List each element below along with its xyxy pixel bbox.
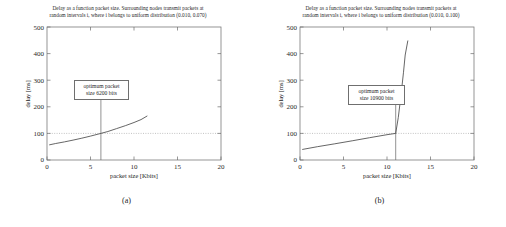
annotation-a-line2: size 6200 bits [86, 90, 117, 97]
x-axis-label-b: packet size [Kbits] [363, 172, 411, 179]
svg-text:400: 400 [287, 50, 298, 58]
svg-text:20: 20 [218, 163, 226, 171]
svg-text:100: 100 [34, 130, 45, 138]
svg-text:500: 500 [34, 24, 45, 32]
svg-text:15: 15 [174, 163, 182, 171]
figure-container: Delay as a function packet size. Surroun… [0, 0, 506, 227]
svg-text:15: 15 [427, 163, 435, 171]
subfigure-caption-a: (a) [0, 196, 253, 205]
svg-text:10: 10 [131, 163, 139, 171]
svg-text:20: 20 [471, 163, 479, 171]
svg-text:100: 100 [287, 130, 298, 138]
y-axis-label-a: delay [ms] [24, 80, 31, 107]
annotation-box-a: optimum packet size 6200 bits [74, 80, 129, 100]
y-axis-tick-labels-b: 0 100 200 300 400 500 [287, 24, 298, 165]
svg-text:0: 0 [41, 156, 45, 164]
svg-text:200: 200 [287, 103, 298, 111]
x-axis-label-a: packet size [Kbits] [110, 172, 158, 179]
chart-svg-b: 0 100 200 300 400 500 [253, 0, 506, 227]
svg-text:500: 500 [287, 24, 298, 32]
svg-text:10: 10 [384, 163, 392, 171]
svg-text:0: 0 [294, 156, 298, 164]
x-axis-tick-labels-b: 0 5 10 15 20 [298, 163, 478, 171]
svg-text:200: 200 [34, 103, 45, 111]
annotation-b-line2: size 10900 bits [360, 95, 394, 102]
y-axis-tick-labels-a: 0 100 200 300 400 500 [34, 24, 45, 165]
svg-text:0: 0 [45, 163, 49, 171]
annotation-b-line1: optimum packet [358, 88, 394, 95]
x-axis-tick-labels-a: 0 5 10 15 20 [45, 163, 225, 171]
svg-text:0: 0 [298, 163, 302, 171]
annotation-a-line1: optimum packet [83, 83, 119, 90]
plot-area-a: 0 100 200 300 400 500 [0, 0, 253, 227]
delay-curve-a [50, 116, 147, 145]
y-axis-label-b: delay [ms] [277, 80, 284, 107]
subfigure-b: Delay as a function packet size. Surroun… [253, 0, 506, 227]
svg-text:300: 300 [287, 77, 298, 85]
subfigure-caption-b: (b) [253, 196, 506, 205]
svg-text:5: 5 [89, 163, 93, 171]
chart-svg-a: 0 100 200 300 400 500 [0, 0, 253, 227]
svg-text:400: 400 [34, 50, 45, 58]
plot-area-b: 0 100 200 300 400 500 [253, 0, 506, 227]
annotation-box-b: optimum packet size 10900 bits [348, 85, 405, 105]
subfigure-a: Delay as a function packet size. Surroun… [0, 0, 253, 227]
svg-text:300: 300 [34, 77, 45, 85]
svg-text:5: 5 [342, 163, 346, 171]
